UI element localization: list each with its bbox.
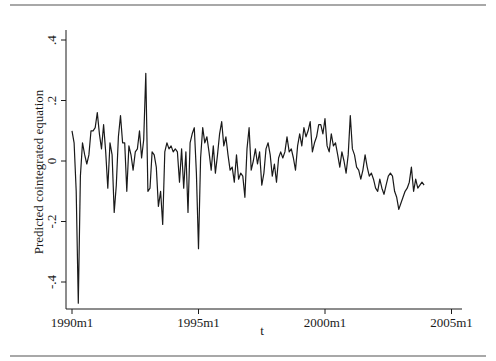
x-axis-title: t (260, 323, 264, 338)
y-tick-label: 0 (44, 158, 59, 165)
x-tick-label: 1990m1 (51, 315, 94, 330)
x-tick-label: 2000m1 (304, 315, 347, 330)
y-axis-title: Predicted cointegrated equation (31, 89, 46, 254)
y-tick-label: .4 (44, 35, 59, 45)
y-tick-label: -.2 (44, 214, 59, 228)
line-chart: -.4-.20.2.4 1990m11995m12000m12005m1 Pre… (0, 0, 496, 361)
y-tick-label: -.4 (44, 274, 59, 289)
graph-region (30, 24, 464, 340)
y-tick-label: .2 (44, 96, 59, 106)
x-tick-label: 2005m1 (430, 315, 473, 330)
x-tick-label: 1995m1 (177, 315, 220, 330)
